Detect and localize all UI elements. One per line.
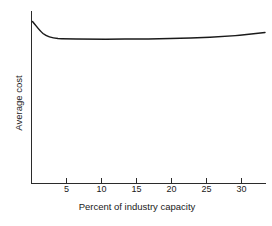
average-cost-chart: 5 10 15 20 25 30 Percent of industry cap… xyxy=(0,0,272,226)
x-tick-label-15: 15 xyxy=(131,184,141,194)
x-tick-label-30: 30 xyxy=(236,184,246,194)
x-tick-label-20: 20 xyxy=(166,184,176,194)
chart-plot-area: 5 10 15 20 25 30 Percent of industry cap… xyxy=(0,0,272,226)
y-axis-title: Average cost xyxy=(13,75,24,131)
x-tick-label-25: 25 xyxy=(201,184,211,194)
x-tick-label-5: 5 xyxy=(64,184,69,194)
x-axis-title: Percent of industry capacity xyxy=(79,201,196,212)
average-cost-curve xyxy=(33,22,266,40)
x-tick-label-10: 10 xyxy=(96,184,106,194)
